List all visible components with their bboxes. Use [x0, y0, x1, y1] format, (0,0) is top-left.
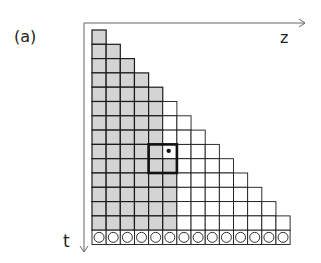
empty-cell	[177, 202, 191, 216]
empty-cell	[177, 144, 191, 158]
shaded-cell	[149, 102, 163, 116]
t-axis-label: t	[63, 231, 70, 251]
shaded-cell	[134, 73, 148, 87]
empty-cell	[248, 216, 262, 230]
shaded-cell	[92, 102, 106, 116]
empty-cell	[219, 159, 233, 173]
shaded-cell	[134, 159, 148, 173]
shaded-cell	[163, 216, 177, 230]
empty-cell	[262, 216, 276, 230]
shaded-cell	[134, 216, 148, 230]
shaded-cell	[149, 216, 163, 230]
panel-label: (a)	[14, 27, 36, 46]
shaded-cell	[163, 202, 177, 216]
empty-cell	[219, 216, 233, 230]
shaded-cell	[106, 44, 120, 58]
empty-cell	[234, 173, 248, 187]
empty-cell	[262, 202, 276, 216]
shaded-cell	[106, 87, 120, 101]
empty-cell	[163, 130, 177, 144]
shaded-cell	[92, 44, 106, 58]
empty-cell	[205, 216, 219, 230]
empty-cell	[177, 187, 191, 201]
shaded-cell	[134, 187, 148, 201]
shaded-cell	[149, 187, 163, 201]
shaded-cell	[149, 87, 163, 101]
empty-cell	[219, 202, 233, 216]
shaded-cell	[92, 30, 106, 44]
grid-cells	[92, 30, 290, 230]
shaded-cell	[92, 159, 106, 173]
shaded-cell	[106, 159, 120, 173]
shaded-cell	[149, 116, 163, 130]
shaded-cell	[92, 173, 106, 187]
shaded-cell	[120, 116, 134, 130]
empty-cell	[205, 202, 219, 216]
shaded-cell	[120, 130, 134, 144]
shaded-cell	[106, 102, 120, 116]
shaded-cell	[134, 116, 148, 130]
shaded-cell	[149, 144, 163, 158]
shaded-cell	[120, 73, 134, 87]
shaded-cell	[134, 102, 148, 116]
shaded-cell	[92, 59, 106, 73]
empty-cell	[205, 144, 219, 158]
empty-cell	[191, 173, 205, 187]
empty-cell	[177, 130, 191, 144]
empty-cell	[177, 159, 191, 173]
shaded-cell	[163, 173, 177, 187]
shaded-cell	[134, 130, 148, 144]
empty-cell	[219, 173, 233, 187]
shaded-cell	[106, 187, 120, 201]
empty-cell	[191, 187, 205, 201]
empty-cell	[248, 202, 262, 216]
shaded-cell	[106, 116, 120, 130]
shaded-cell	[163, 187, 177, 201]
shaded-cell	[92, 87, 106, 101]
diagram-canvas: (a) z t	[0, 0, 321, 263]
shaded-cell	[106, 130, 120, 144]
shaded-cell	[149, 173, 163, 187]
shaded-cell	[163, 159, 177, 173]
shaded-cell	[120, 216, 134, 230]
empty-cell	[191, 159, 205, 173]
shaded-cell	[149, 130, 163, 144]
empty-cell	[205, 173, 219, 187]
shaded-cell	[120, 202, 134, 216]
empty-cell	[205, 187, 219, 201]
empty-cell	[163, 116, 177, 130]
shaded-cell	[120, 87, 134, 101]
circle-row	[92, 230, 290, 244]
shaded-cell	[120, 102, 134, 116]
empty-cell	[177, 173, 191, 187]
empty-cell	[191, 216, 205, 230]
shaded-cell	[106, 73, 120, 87]
shaded-cell	[120, 144, 134, 158]
shaded-cell	[120, 173, 134, 187]
shaded-cell	[120, 187, 134, 201]
shaded-cell	[92, 202, 106, 216]
shaded-cell	[106, 144, 120, 158]
shaded-cell	[106, 216, 120, 230]
shaded-cell	[92, 130, 106, 144]
empty-cell	[191, 130, 205, 144]
shaded-cell	[134, 173, 148, 187]
empty-cell	[248, 187, 262, 201]
shaded-cell	[149, 159, 163, 173]
shaded-cell	[134, 144, 148, 158]
empty-cell	[219, 187, 233, 201]
shaded-cell	[106, 202, 120, 216]
empty-cell	[234, 216, 248, 230]
shaded-cell	[134, 202, 148, 216]
shaded-cell	[92, 216, 106, 230]
empty-cell	[177, 116, 191, 130]
empty-cell	[234, 202, 248, 216]
shaded-cell	[92, 116, 106, 130]
shaded-cell	[120, 59, 134, 73]
empty-cell	[205, 159, 219, 173]
empty-cell	[191, 202, 205, 216]
marked-point-a	[166, 149, 170, 153]
z-axis-label: z	[280, 28, 288, 47]
shaded-cell	[149, 202, 163, 216]
shaded-cell	[106, 173, 120, 187]
